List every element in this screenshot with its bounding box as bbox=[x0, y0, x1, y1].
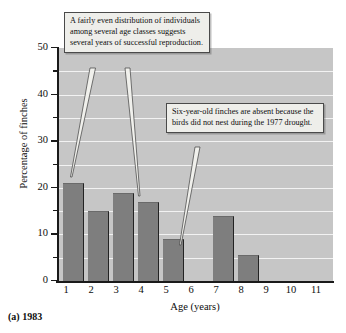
x-tick-label-4: 4 bbox=[129, 285, 154, 296]
gridline-20 bbox=[57, 188, 333, 189]
gridline-40 bbox=[57, 95, 333, 96]
bar-age-5 bbox=[163, 239, 184, 281]
x-tick-label-2: 2 bbox=[79, 285, 104, 296]
x-tick-label-11: 11 bbox=[304, 285, 329, 296]
x-tick-label-5: 5 bbox=[154, 285, 179, 296]
bar-age-3 bbox=[113, 193, 134, 282]
figure-container: 50 40 30 20 10 0 1 2 3 4 5 6 7 8 9 10 11… bbox=[0, 0, 346, 333]
x-tick-label-7: 7 bbox=[204, 285, 229, 296]
x-tick-label-9: 9 bbox=[254, 285, 279, 296]
x-tick-label-1: 1 bbox=[54, 285, 79, 296]
x-tick-label-8: 8 bbox=[229, 285, 254, 296]
bar-age-1 bbox=[63, 183, 84, 281]
y-axis-title: Percentage of finches bbox=[18, 69, 29, 219]
y-tick-label-0: 0 bbox=[0, 275, 48, 286]
y-tick-0 bbox=[51, 280, 57, 281]
y-tick-45 bbox=[53, 70, 57, 71]
y-tick-label-10: 10 bbox=[0, 228, 48, 239]
bar-age-8 bbox=[238, 255, 259, 281]
bar-age-7 bbox=[213, 216, 234, 281]
plot-area bbox=[57, 48, 333, 281]
y-tick-50 bbox=[51, 47, 57, 48]
figure-caption: (a) 1983 bbox=[8, 311, 42, 322]
x-tick-label-6: 6 bbox=[179, 285, 204, 296]
y-tick-20 bbox=[51, 187, 57, 188]
x-axis-title: Age (years) bbox=[57, 301, 333, 312]
y-tick-label-50: 50 bbox=[0, 42, 48, 53]
y-tick-25 bbox=[53, 164, 57, 165]
y-tick-30 bbox=[51, 140, 57, 141]
y-tick-40 bbox=[51, 94, 57, 95]
bar-age-2 bbox=[88, 211, 109, 281]
gridline-25 bbox=[57, 165, 333, 166]
x-axis-line bbox=[56, 281, 334, 283]
y-tick-5 bbox=[53, 257, 57, 258]
x-tick-label-10: 10 bbox=[279, 285, 304, 296]
x-tick-label-3: 3 bbox=[104, 285, 129, 296]
callout-six-year-olds-absent: Six-year-old finches are absent because … bbox=[166, 103, 324, 133]
gridline-45 bbox=[57, 71, 333, 72]
gridline-30 bbox=[57, 141, 333, 142]
y-tick-15 bbox=[53, 210, 57, 211]
callout-even-distribution: A fairly even distribution of individual… bbox=[64, 12, 210, 53]
y-tick-35 bbox=[53, 117, 57, 118]
y-tick-10 bbox=[51, 233, 57, 234]
y-axis-line bbox=[57, 47, 59, 282]
bar-age-4 bbox=[138, 202, 159, 281]
